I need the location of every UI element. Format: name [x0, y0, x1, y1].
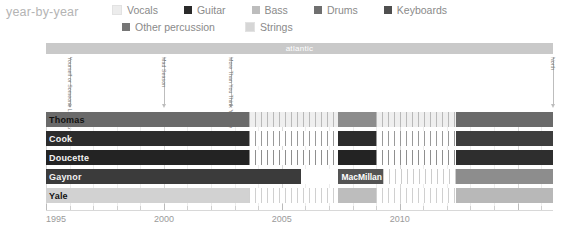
- label-bar-text: atlantic: [286, 44, 314, 53]
- legend-item-bass[interactable]: Bass: [252, 4, 288, 16]
- page-title: year-by-year: [6, 5, 79, 19]
- annotation-label: North: [550, 57, 556, 70]
- row-segment: [46, 169, 301, 184]
- segment-inline-label: MacMillan: [341, 172, 382, 182]
- row-segment: [456, 150, 553, 165]
- legend-swatch-icon: [384, 6, 392, 14]
- legend: VocalsGuitarBassDrumsKeyboards Other per…: [112, 2, 552, 34]
- legend-item-strings[interactable]: Strings: [245, 21, 293, 33]
- row-segment: [338, 150, 376, 165]
- axis-tick: [541, 206, 542, 210]
- row-segment: [338, 188, 376, 203]
- axis-tick: [117, 206, 118, 210]
- chart-row-doucette[interactable]: Doucette: [0, 150, 561, 165]
- axis-line: [46, 210, 553, 211]
- row-label: Gaynor: [49, 172, 82, 182]
- axis-tick: [282, 204, 283, 210]
- axis-tick: [423, 206, 424, 210]
- axis-tick: [376, 206, 377, 210]
- row-segment: [456, 112, 553, 127]
- legend-swatch-icon: [122, 23, 130, 31]
- legend-item-other-percussion[interactable]: Other percussion: [122, 21, 215, 33]
- axis-tick: [258, 206, 259, 210]
- label-bar-atlantic: atlantic: [46, 43, 553, 54]
- axis-tick: [305, 206, 306, 210]
- legend-swatch-icon: [184, 6, 192, 14]
- row-segment: [376, 150, 456, 165]
- axis-tick-label: 1995: [46, 214, 66, 224]
- axis-tick-label: 2010: [390, 214, 410, 224]
- axis-tick: [447, 206, 448, 210]
- legend-item-guitar[interactable]: Guitar: [184, 4, 226, 16]
- arrow-down-icon: [551, 104, 555, 108]
- axis-tick-label: 2000: [154, 214, 174, 224]
- axis-tick: [518, 204, 519, 210]
- axis-tick: [187, 206, 188, 210]
- legend-label: Bass: [265, 4, 288, 16]
- row-segment: [338, 112, 376, 127]
- axis-tick: [235, 206, 236, 210]
- chart-row-yale[interactable]: Yale: [0, 188, 561, 203]
- axis-tick: [140, 206, 141, 210]
- axis-tick: [470, 206, 471, 210]
- row-segment: [376, 188, 456, 203]
- arrow-down-icon: [162, 104, 166, 108]
- row-segment: [338, 131, 376, 146]
- row-segment: [456, 188, 553, 203]
- axis-tick: [400, 204, 401, 210]
- legend-label: Guitar: [197, 4, 226, 16]
- axis-tick: [329, 206, 330, 210]
- legend-swatch-icon: [252, 6, 260, 14]
- axis-tick-label: 2005: [272, 214, 292, 224]
- row-label: Doucette: [49, 153, 89, 163]
- row-segment: [249, 112, 339, 127]
- legend-item-vocals[interactable]: Vocals: [112, 4, 158, 16]
- row-segment: [376, 131, 456, 146]
- axis-tick: [46, 204, 47, 210]
- row-label: Thomas: [49, 115, 85, 125]
- legend-swatch-icon: [245, 22, 255, 32]
- chart-root: year-by-year VocalsGuitarBassDrumsKeyboa…: [0, 0, 561, 238]
- plot-area: ThomasCookDoucetteMacMillanGaynorYale: [0, 112, 561, 207]
- axis-tick: [93, 206, 94, 210]
- axis-tick: [211, 206, 212, 210]
- axis-tick: [494, 206, 495, 210]
- chart-row-cook[interactable]: Cook: [0, 131, 561, 146]
- legend-label: Drums: [327, 4, 358, 16]
- row-segment: [376, 112, 456, 127]
- legend-label: Vocals: [127, 4, 158, 16]
- legend-row-2: Other percussionStrings: [112, 19, 552, 34]
- legend-item-keyboards[interactable]: Keyboards: [384, 4, 447, 16]
- row-segment: [46, 188, 249, 203]
- legend-label: Strings: [260, 21, 293, 33]
- legend-item-drums[interactable]: Drums: [314, 4, 358, 16]
- row-segment: [456, 131, 553, 146]
- annotation-label: Mad Season: [161, 57, 167, 87]
- row-segment: [249, 188, 339, 203]
- row-segment: [383, 169, 456, 184]
- chart-row-thomas[interactable]: Thomas: [0, 112, 561, 127]
- axis-tick: [353, 206, 354, 210]
- row-segment: [456, 169, 553, 184]
- row-segment: [249, 131, 339, 146]
- legend-label: Other percussion: [135, 21, 215, 33]
- legend-label: Keyboards: [397, 4, 447, 16]
- row-label: Cook: [49, 134, 72, 144]
- legend-swatch-icon: [112, 5, 122, 15]
- legend-swatch-icon: [314, 6, 322, 14]
- axis-tick: [164, 204, 165, 210]
- row-segment: [46, 131, 249, 146]
- legend-row-1: VocalsGuitarBassDrumsKeyboards: [112, 2, 552, 17]
- row-segment: [249, 150, 339, 165]
- row-label: Yale: [49, 191, 68, 201]
- axis-tick: [70, 206, 71, 210]
- chart-row-gaynor[interactable]: MacMillanGaynor: [0, 169, 561, 184]
